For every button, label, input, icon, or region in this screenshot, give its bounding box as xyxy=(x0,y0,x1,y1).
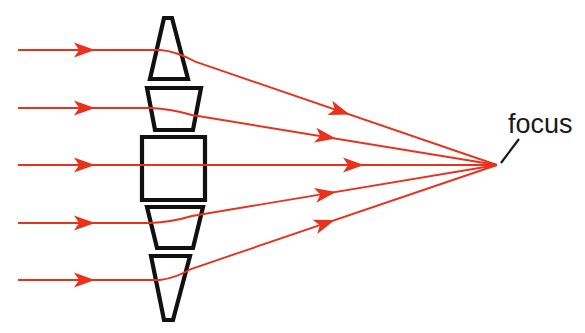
optics-ray-diagram-canvas: focus xyxy=(0,0,585,333)
lower-trapezoid xyxy=(147,207,203,248)
optics-diagram: focus xyxy=(0,0,585,333)
center-rectangle xyxy=(142,137,205,200)
focus-label: focus xyxy=(508,109,573,139)
